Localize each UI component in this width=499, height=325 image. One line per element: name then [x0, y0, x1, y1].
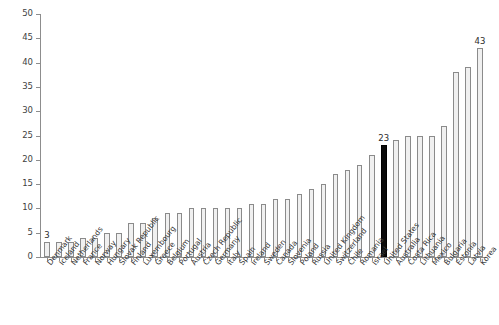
y-tick-label: 45 — [22, 32, 33, 42]
y-tick-label: 35 — [22, 81, 33, 91]
bar-slot — [453, 14, 459, 257]
bar-slot — [116, 14, 122, 257]
y-tick-5: 5 — [0, 233, 40, 234]
bar-slot — [345, 14, 351, 257]
y-tick-label: 25 — [22, 130, 33, 140]
bar-slot — [201, 14, 207, 257]
y-tick-label: 30 — [22, 105, 33, 115]
y-tick-15: 15 — [0, 184, 40, 185]
bar-slot — [225, 14, 231, 257]
bar[interactable] — [453, 72, 459, 257]
y-tick-40: 40 — [0, 63, 40, 64]
y-tick-30: 30 — [0, 111, 40, 112]
y-tick-25: 25 — [0, 136, 40, 137]
y-tick-50: 50 — [0, 14, 40, 15]
bar-slot — [465, 14, 471, 257]
bar-slot — [177, 14, 183, 257]
y-tick-mark — [36, 136, 40, 137]
bar-value-label: 3 — [44, 231, 49, 240]
bar-slot — [104, 14, 110, 257]
y-tick-mark — [36, 87, 40, 88]
y-tick-mark — [36, 160, 40, 161]
bar-slot — [140, 14, 146, 257]
y-tick-mark — [36, 208, 40, 209]
bar-slot — [369, 14, 375, 257]
bar-slot: 23 — [381, 14, 387, 257]
y-tick-label: 10 — [22, 202, 33, 212]
bar-slot — [273, 14, 279, 257]
bar-slot — [189, 14, 195, 257]
bar-slot — [285, 14, 291, 257]
bar-slot — [92, 14, 98, 257]
bar-slot: 3 — [44, 14, 50, 257]
y-tick-mark — [36, 233, 40, 234]
bar[interactable] — [477, 48, 483, 257]
bar-slot — [249, 14, 255, 257]
bar-slot — [441, 14, 447, 257]
bar-slot — [393, 14, 399, 257]
bar[interactable] — [465, 67, 471, 257]
y-tick-mark — [36, 38, 40, 39]
bar-slot — [213, 14, 219, 257]
bar-slot — [429, 14, 435, 257]
x-axis-labels: DenmarkIcelandNetherlandsFranceNorwayHun… — [41, 262, 486, 325]
bar-slot — [80, 14, 86, 257]
y-tick-20: 20 — [0, 160, 40, 161]
bar-slot — [128, 14, 134, 257]
y-tick-mark — [36, 63, 40, 64]
bar-slot — [405, 14, 411, 257]
y-tick-10: 10 — [0, 208, 40, 209]
bar-slot — [309, 14, 315, 257]
bar-slot — [321, 14, 327, 257]
bar-slot — [333, 14, 339, 257]
bar-slot — [261, 14, 267, 257]
bar-value-label: 43 — [475, 37, 486, 46]
bar-slot — [68, 14, 74, 257]
y-tick-0: 0 — [0, 257, 40, 258]
bar-value-label: 23 — [378, 134, 389, 143]
y-tick-label: 20 — [22, 154, 33, 164]
bar-slot — [56, 14, 62, 257]
y-tick-mark — [36, 14, 40, 15]
y-tick-label: 0 — [28, 251, 33, 261]
y-tick-mark — [36, 184, 40, 185]
y-tick-45: 45 — [0, 38, 40, 39]
y-tick-label: 50 — [22, 8, 33, 18]
bar-slot — [417, 14, 423, 257]
bar-slot: 43 — [477, 14, 483, 257]
y-tick-mark — [36, 111, 40, 112]
y-tick-35: 35 — [0, 87, 40, 88]
bar-slot — [297, 14, 303, 257]
bar-slot — [165, 14, 171, 257]
y-tick-label: 40 — [22, 57, 33, 67]
y-tick-label: 15 — [22, 178, 33, 188]
bars-container: 32343 — [41, 14, 486, 257]
y-tick-label: 5 — [28, 227, 33, 237]
